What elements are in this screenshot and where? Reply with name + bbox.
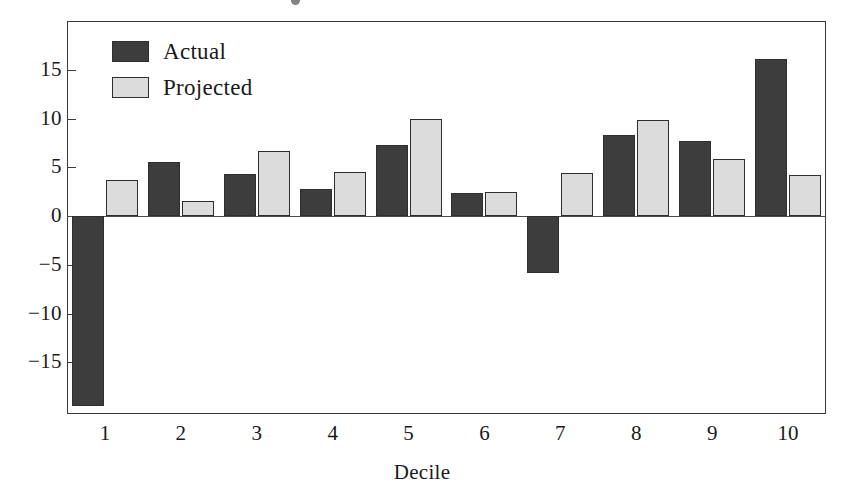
bar-actual-decile-2 xyxy=(148,162,180,216)
y-axis-tick-label: 0 xyxy=(51,205,62,226)
bar-actual-decile-6 xyxy=(451,193,483,216)
x-axis-tick-label: 5 xyxy=(403,423,414,444)
x-axis-tick-label: 1 xyxy=(100,423,111,444)
bar-projected-decile-3 xyxy=(258,151,290,216)
x-axis-tick-label: 10 xyxy=(778,423,799,444)
x-axis-tick-label: 4 xyxy=(327,423,338,444)
light-square-swatch-icon xyxy=(112,77,149,98)
x-axis-tick-label: 9 xyxy=(707,423,718,444)
bar-projected-decile-5 xyxy=(410,119,442,217)
bar-projected-decile-7 xyxy=(561,173,593,216)
bar-actual-decile-8 xyxy=(603,135,635,216)
bar-projected-decile-10 xyxy=(789,175,821,216)
bar-projected-decile-2 xyxy=(182,201,214,216)
bar-projected-decile-9 xyxy=(713,159,745,217)
bar-projected-decile-1 xyxy=(106,180,138,216)
legend-item-projected: Projected xyxy=(112,72,253,102)
bar-actual-decile-10 xyxy=(755,59,787,216)
y-axis-tick-label: −5 xyxy=(39,254,62,275)
y-axis-tick-label: 15 xyxy=(40,59,62,80)
y-axis-tick-label: 10 xyxy=(40,108,62,129)
bar-actual-decile-1 xyxy=(72,216,104,406)
x-axis-tick-label: 8 xyxy=(631,423,642,444)
y-axis-tick-label: −15 xyxy=(28,351,62,372)
chart-legend: Actual Projected xyxy=(112,36,253,108)
bar-projected-decile-4 xyxy=(334,172,366,216)
y-axis-tick-label: −10 xyxy=(28,303,62,324)
x-axis-tick-label: 6 xyxy=(479,423,490,444)
bar-actual-decile-9 xyxy=(679,141,711,216)
legend-item-actual: Actual xyxy=(112,36,253,66)
x-axis-title: Decile xyxy=(0,462,844,483)
bar-projected-decile-8 xyxy=(637,120,669,216)
x-axis-tick-label: 2 xyxy=(176,423,187,444)
legend-label-projected: Projected xyxy=(163,76,253,99)
legend-label-actual: Actual xyxy=(163,40,226,63)
bar-actual-decile-5 xyxy=(376,145,408,216)
bar-projected-decile-6 xyxy=(485,192,517,216)
bar-chart-figure: 151050−5−10−15 12345678910 Decile Actual… xyxy=(0,0,844,502)
bar-actual-decile-7 xyxy=(527,216,559,273)
bar-actual-decile-3 xyxy=(224,174,256,216)
dark-square-swatch-icon xyxy=(112,41,149,62)
cropped-text-artifact xyxy=(291,0,300,5)
y-axis-tick-label: 5 xyxy=(51,156,62,177)
x-axis-tick-label: 3 xyxy=(252,423,263,444)
bar-actual-decile-4 xyxy=(300,189,332,216)
x-axis-tick-label: 7 xyxy=(555,423,566,444)
